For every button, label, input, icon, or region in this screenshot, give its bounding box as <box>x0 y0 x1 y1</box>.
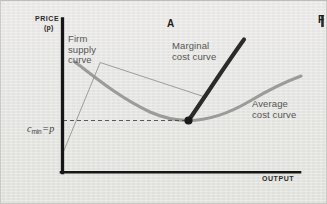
y-axis-unit: (p) <box>44 24 54 32</box>
firm-supply-curve-label: Firm supply curve <box>68 34 96 66</box>
average-cost-curve-label: Average cost curve <box>252 99 296 120</box>
figure-panel: PRICE (p) OUTPUT A F cmin=p Firm supply … <box>0 0 327 204</box>
equilibrium-point-dot <box>184 116 192 124</box>
firm-supply-curve <box>64 63 204 152</box>
y-axis-title: PRICE <box>35 15 59 23</box>
firm-supply-rising-segment <box>64 63 101 152</box>
price-level-subscript: min <box>31 128 41 135</box>
price-level-price-var: p <box>49 123 54 134</box>
panel-label-a: A <box>167 18 174 29</box>
x-axis-title: OUTPUT <box>262 175 294 183</box>
price-level-label: cmin=p <box>17 112 54 147</box>
adjacent-panel-label: F <box>318 14 324 25</box>
marginal-cost-curve-label: Marginal cost curve <box>172 41 216 62</box>
